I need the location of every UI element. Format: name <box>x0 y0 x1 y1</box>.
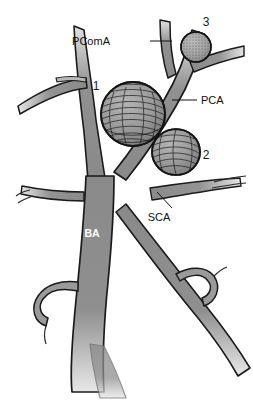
label-ba: BA <box>84 227 100 239</box>
numeral-aneurysm-2: 2 <box>203 148 210 162</box>
vascular-diagram-svg: PComA PCA SCA BA 1 2 3 <box>0 0 253 407</box>
label-sca: SCA <box>148 211 171 223</box>
label-pca: PCA <box>201 94 224 106</box>
aneurysm-2 <box>152 129 200 175</box>
aneurysm-1 <box>100 82 166 146</box>
numeral-aneurysm-1: 1 <box>93 79 100 93</box>
numeral-aneurysm-3: 3 <box>203 15 210 29</box>
anatomical-illustration: PComA PCA SCA BA 1 2 3 <box>0 0 253 407</box>
aneurysm-3 <box>181 32 211 62</box>
label-pcoma: PComA <box>72 35 111 47</box>
